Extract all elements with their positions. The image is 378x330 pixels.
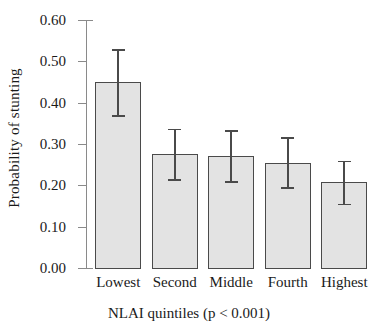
error-bar-line xyxy=(343,161,345,204)
y-axis-tick-label: 0.10 xyxy=(20,219,66,234)
y-axis-tick-mark xyxy=(78,227,86,228)
y-axis-tick-mark xyxy=(78,103,86,104)
stunting-probability-chart: Probability of stunting 0.000.100.200.30… xyxy=(0,0,378,330)
error-bar-lower-cap xyxy=(168,179,181,181)
y-axis-tick-mark xyxy=(78,20,86,21)
error-bar-line xyxy=(287,137,289,187)
x-axis-category-label: Second xyxy=(147,274,204,291)
x-axis-category-label: Middle xyxy=(203,274,260,291)
error-bar-lower-cap xyxy=(225,181,238,183)
y-axis-tick-mark xyxy=(78,185,86,186)
error-bar-upper-cap xyxy=(112,49,125,51)
y-axis-tick-label: 0.60 xyxy=(20,13,66,28)
x-axis-category-label: Highest xyxy=(316,274,373,291)
y-axis-tick-label: 0.00 xyxy=(20,261,66,276)
error-bar-line xyxy=(174,129,176,179)
y-axis-tick-mark xyxy=(78,144,86,145)
error-bar-line xyxy=(230,130,232,181)
y-axis-tick-label: 0.30 xyxy=(20,137,66,152)
y-axis-tick-mark xyxy=(78,61,86,62)
x-axis-category-label: Fourth xyxy=(260,274,317,291)
error-bar-upper-cap xyxy=(338,161,351,163)
error-bar-lower-cap xyxy=(338,204,351,206)
error-bar-line xyxy=(117,49,119,115)
error-bar-upper-cap xyxy=(225,130,238,132)
x-axis-category-label: Lowest xyxy=(90,274,147,291)
y-axis-tick-mark xyxy=(78,268,86,269)
error-bar-lower-cap xyxy=(112,115,125,117)
y-axis-tick-label: 0.50 xyxy=(20,54,66,69)
x-axis-title: NLAI quintiles (p < 0.001) xyxy=(0,305,378,322)
error-bar-upper-cap xyxy=(168,129,181,131)
error-bar-lower-cap xyxy=(281,187,294,189)
y-axis-tick-labels: 0.000.100.200.300.400.500.60 xyxy=(20,0,66,330)
y-axis-tick-label: 0.20 xyxy=(20,178,66,193)
error-bar-upper-cap xyxy=(281,137,294,139)
y-axis-tick-label: 0.40 xyxy=(20,95,66,110)
